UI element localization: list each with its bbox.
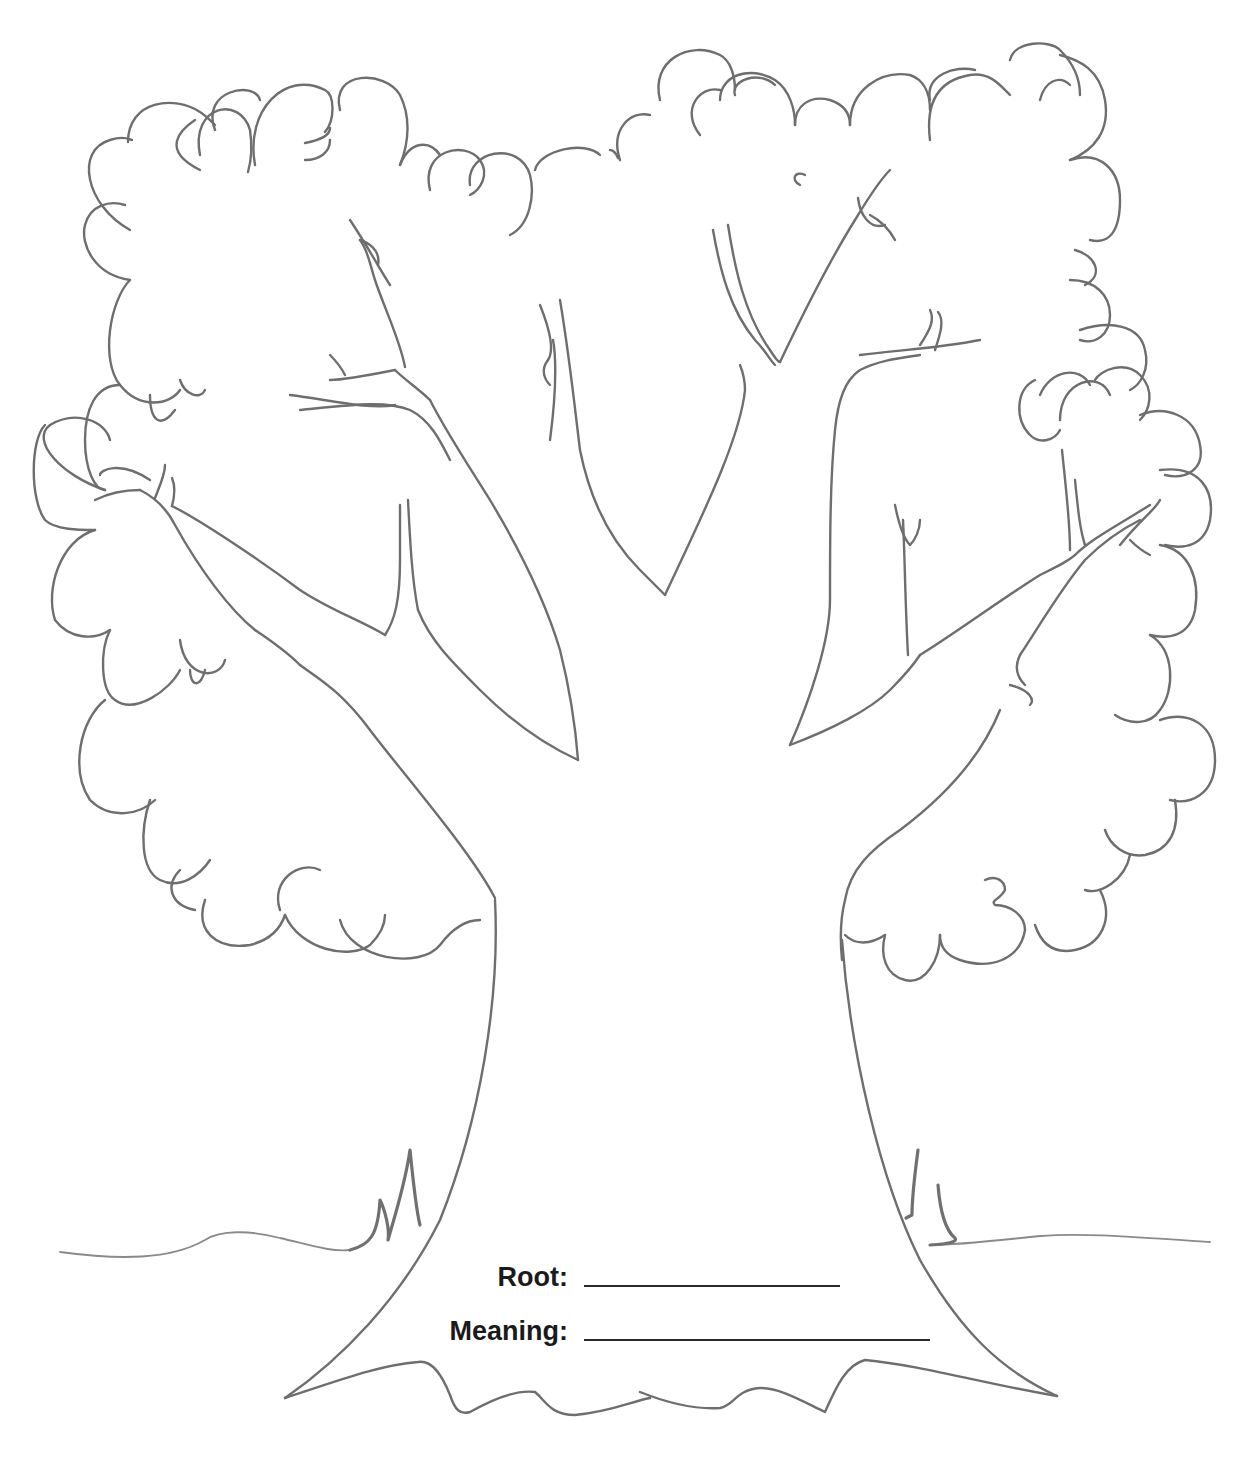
root-field-row: Root: (420, 1262, 840, 1293)
root-blank-line[interactable] (584, 1285, 840, 1287)
root-label: Root: (420, 1262, 568, 1293)
tree-illustration (0, 0, 1256, 1458)
meaning-blank-line[interactable] (584, 1339, 930, 1341)
meaning-field-row: Meaning: (420, 1316, 930, 1347)
trunk-and-branches (95, 170, 1160, 960)
canopy-outline (34, 43, 1215, 980)
meaning-label: Meaning: (420, 1316, 568, 1347)
